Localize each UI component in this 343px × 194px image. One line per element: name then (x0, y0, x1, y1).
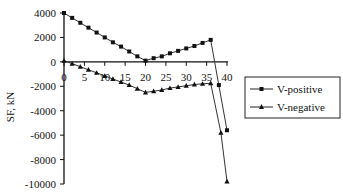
square-marker-icon (160, 54, 164, 58)
square-marker-icon (192, 44, 196, 48)
square-marker-icon (103, 35, 107, 39)
square-marker-icon (119, 45, 123, 49)
x-tick-label: 20 (140, 71, 152, 83)
square-marker-icon (184, 46, 188, 50)
y-tick-label: -10000 (25, 178, 57, 190)
legend-label-v-positive: V-positive (277, 83, 323, 95)
square-marker-icon (70, 16, 74, 20)
shear-force-chart: 400020000-2000-4000-6000-8000-10000 0510… (0, 0, 343, 194)
square-marker-icon (168, 51, 172, 55)
square-marker-icon (62, 11, 66, 15)
square-marker-icon (135, 54, 139, 58)
triangle-marker-icon (224, 179, 229, 184)
square-marker-icon (260, 87, 264, 91)
y-tick-label: 2000 (34, 31, 57, 43)
square-marker-icon (217, 83, 221, 87)
square-marker-icon (86, 26, 90, 30)
square-marker-icon (201, 41, 205, 45)
series-layer (61, 11, 229, 184)
triangle-marker-icon (61, 58, 66, 63)
square-marker-icon (152, 56, 156, 60)
triangle-marker-icon (218, 130, 223, 135)
y-tick-label: 0 (51, 56, 57, 68)
x-tick-label: 0 (61, 71, 67, 83)
y-tick-label: -6000 (30, 129, 56, 141)
x-tick-label: 40 (222, 71, 234, 83)
y-tick-label: 4000 (34, 7, 57, 19)
square-marker-icon (95, 31, 99, 35)
square-marker-icon (176, 49, 180, 53)
legend-label-v-negative: V-negative (277, 101, 325, 113)
legend: V-positive V-negative (245, 77, 340, 118)
x-tick-label: 5 (82, 71, 88, 83)
square-marker-icon (127, 49, 131, 53)
x-tick-label: 30 (181, 71, 193, 83)
x-axis: 0510152025303540 (61, 62, 233, 83)
y-axis-title: SF, kN (4, 92, 16, 122)
y-tick-label: -2000 (30, 80, 56, 92)
y-axis: 400020000-2000-4000-6000-8000-10000 (25, 7, 64, 190)
square-marker-icon (78, 21, 82, 25)
square-marker-icon (144, 59, 148, 63)
y-tick-label: -4000 (30, 105, 56, 117)
square-marker-icon (111, 40, 115, 44)
square-marker-icon (225, 128, 229, 132)
x-tick-label: 25 (160, 71, 172, 83)
square-marker-icon (209, 38, 213, 42)
y-tick-label: -8000 (30, 154, 56, 166)
